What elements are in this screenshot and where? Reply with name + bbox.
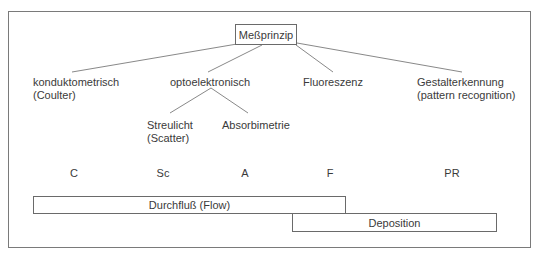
method-optoelectronic: optoelektronisch bbox=[170, 76, 250, 89]
flow-label: Durchfluß (Flow) bbox=[149, 199, 230, 211]
flow-mode-bar: Durchfluß (Flow) bbox=[33, 196, 346, 214]
method-pattern-recognition: Gestalterkennung (pattern recognition) bbox=[417, 76, 515, 102]
method-label: Gestalterkennung bbox=[417, 76, 515, 89]
root-node: Meßprinzip bbox=[235, 24, 297, 45]
abbr-a: A bbox=[241, 167, 248, 179]
deposition-label: Deposition bbox=[369, 217, 421, 229]
method-label: konduktometrisch bbox=[33, 76, 119, 89]
child-label: Streulicht bbox=[147, 119, 193, 132]
abbr-c: C bbox=[70, 167, 78, 179]
child-label: Absorbimetrie bbox=[222, 119, 290, 132]
abbr-pr: PR bbox=[444, 167, 459, 179]
deposition-mode-bar: Deposition bbox=[292, 213, 497, 232]
abbr-sc: Sc bbox=[157, 167, 170, 179]
method-sub: (Coulter) bbox=[33, 89, 119, 102]
method-fluorescence: Fluoreszenz bbox=[303, 76, 363, 89]
method-label: Fluoreszenz bbox=[303, 76, 363, 89]
child-sub: (Scatter) bbox=[147, 132, 193, 145]
abbr-f: F bbox=[327, 167, 334, 179]
child-absorbimetry: Absorbimetrie bbox=[222, 119, 290, 132]
method-sub: (pattern recognition) bbox=[417, 89, 515, 102]
child-scatter: Streulicht (Scatter) bbox=[147, 119, 193, 145]
root-label: Meßprinzip bbox=[239, 29, 293, 41]
method-conductometric: konduktometrisch (Coulter) bbox=[33, 76, 119, 102]
method-label: optoelektronisch bbox=[170, 76, 250, 89]
